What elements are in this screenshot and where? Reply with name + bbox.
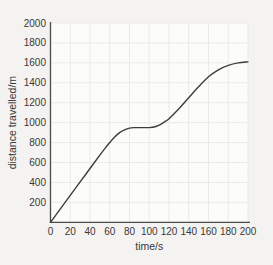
x-tick-label: 40 (84, 226, 96, 237)
y-tick-label: 1800 (24, 37, 47, 48)
x-tick-label: 100 (141, 226, 158, 237)
chart-page: 0204060801001201401601802002004006008001… (0, 0, 273, 265)
y-tick-label: 800 (29, 137, 46, 148)
x-tick-label: 120 (161, 226, 178, 237)
x-tick-label: 160 (200, 226, 217, 237)
distance-time-chart: 0204060801001201401601802002004006008001… (0, 0, 273, 265)
y-tick-label: 1200 (24, 97, 47, 108)
x-tick-label: 20 (65, 226, 77, 237)
y-axis-title: distance travelled/m (6, 76, 18, 170)
x-axis-title: time/s (135, 240, 163, 252)
line-chart-svg: 0204060801001201401601802002004006008001… (0, 0, 273, 265)
y-tick-label: 1000 (24, 117, 47, 128)
x-tick-label: 180 (220, 226, 237, 237)
x-tick-label: 140 (180, 226, 197, 237)
y-tick-label: 1400 (24, 77, 47, 88)
y-tick-label: 600 (29, 157, 46, 168)
x-tick-label: 80 (124, 226, 136, 237)
x-tick-label: 200 (240, 226, 257, 237)
y-tick-label: 400 (29, 177, 46, 188)
y-tick-label: 2000 (24, 18, 47, 29)
x-tick-label: 60 (104, 226, 116, 237)
y-tick-label: 1600 (24, 57, 47, 68)
y-tick-label: 200 (29, 197, 46, 208)
x-tick-label: 0 (48, 226, 54, 237)
